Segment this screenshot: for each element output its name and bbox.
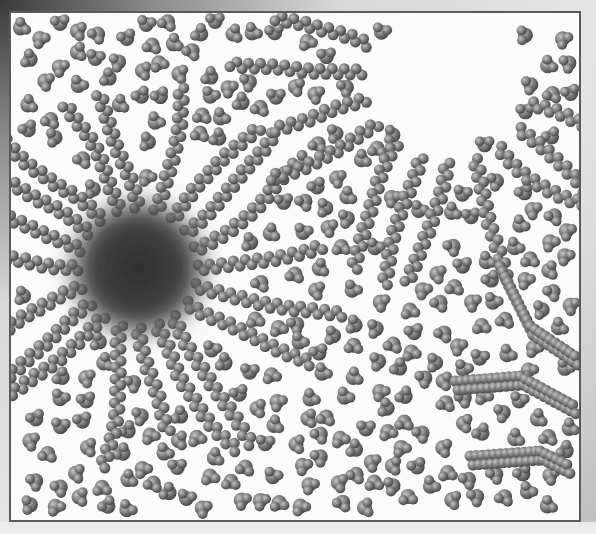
water-molecule [324, 325, 341, 345]
water-molecule [427, 353, 443, 373]
water-molecule [263, 223, 281, 242]
water-molecule [78, 370, 96, 389]
water-molecule [270, 394, 288, 412]
water-molecule [541, 260, 558, 280]
water-molecule [461, 207, 481, 224]
water-molecule [244, 22, 262, 40]
water-molecule [394, 386, 412, 404]
water-molecule [471, 423, 489, 441]
water-molecule [170, 405, 188, 424]
water-molecule [52, 59, 70, 77]
water-molecule [293, 499, 311, 517]
water-molecule [167, 459, 187, 475]
water-molecule [453, 185, 472, 202]
water-molecule [239, 74, 257, 93]
water-molecule [250, 275, 269, 293]
water-molecule [213, 107, 231, 125]
water-molecule [139, 169, 157, 187]
water-molecule [306, 177, 325, 195]
water-molecule [72, 412, 91, 429]
water-molecule [444, 202, 462, 220]
water-molecule [49, 479, 67, 497]
water-molecule [433, 325, 451, 343]
water-molecule [190, 23, 208, 41]
water-molecule [284, 266, 304, 283]
water-molecule [291, 331, 309, 349]
water-molecule [225, 23, 242, 42]
water-molecule [495, 312, 514, 329]
water-molecule [344, 338, 364, 354]
water-molecule [530, 408, 548, 427]
simulation-frame [9, 11, 581, 522]
water-molecule [303, 388, 321, 406]
water-molecule [202, 86, 221, 104]
water-molecule [149, 86, 168, 104]
water-molecule [316, 409, 335, 426]
water-molecule [201, 469, 221, 486]
water-molecule [514, 182, 533, 200]
water-molecule [494, 489, 513, 506]
water-molecule [70, 22, 87, 42]
water-molecule [294, 223, 313, 240]
water-molecule [188, 430, 207, 447]
water-molecule [250, 100, 269, 117]
water-molecule [21, 495, 37, 515]
water-molecule [270, 495, 290, 512]
water-molecule [559, 223, 577, 241]
water-molecule [507, 237, 525, 255]
water-molecule [166, 33, 184, 51]
water-molecule [450, 338, 468, 356]
water-molecule [402, 344, 421, 361]
bottom-margin [0, 522, 596, 534]
water-molecule [68, 464, 85, 484]
water-molecule [70, 42, 87, 62]
water-molecule [266, 89, 286, 105]
water-molecule [181, 43, 199, 61]
water-molecule [373, 22, 392, 39]
water-molecule [46, 128, 63, 148]
water-molecule [401, 303, 421, 320]
water-molecule [97, 495, 115, 513]
water-molecule [332, 495, 351, 513]
water-molecule [307, 86, 325, 105]
water-molecule [555, 31, 573, 49]
water-molecule [232, 92, 250, 110]
water-molecule [551, 317, 569, 335]
water-molecule [520, 251, 540, 267]
water-molecule [373, 294, 391, 313]
water-molecule [157, 14, 176, 32]
water-molecule [37, 73, 55, 92]
water-molecule [367, 319, 384, 339]
water-molecule [414, 370, 432, 388]
water-molecule [192, 107, 212, 123]
water-molecule [559, 55, 577, 74]
water-molecule [346, 314, 363, 333]
water-molecule [538, 429, 558, 446]
water-molecule [520, 481, 538, 499]
water-molecule [542, 234, 560, 252]
water-molecule [228, 384, 247, 402]
water-molecule [139, 132, 156, 152]
water-molecule [321, 219, 339, 238]
water-molecule [246, 312, 266, 329]
water-molecule [507, 428, 525, 446]
water-molecule [25, 409, 44, 427]
water-molecule [148, 111, 166, 129]
water-molecule [518, 272, 536, 290]
water-molecule [52, 388, 71, 406]
water-molecule [156, 442, 174, 460]
water-molecule [299, 34, 318, 51]
water-molecule [20, 48, 38, 67]
water-molecule [142, 428, 161, 446]
water-molecule [295, 458, 313, 476]
water-molecule [436, 372, 452, 392]
water-molecule [393, 440, 412, 458]
water-molecule [256, 435, 276, 451]
water-molecule [331, 474, 348, 493]
water-molecule [87, 26, 105, 44]
water-molecule [195, 501, 213, 519]
water-molecule [308, 281, 325, 300]
water-molecule [499, 344, 517, 362]
water-molecule [540, 55, 558, 73]
water-molecule [37, 446, 57, 463]
